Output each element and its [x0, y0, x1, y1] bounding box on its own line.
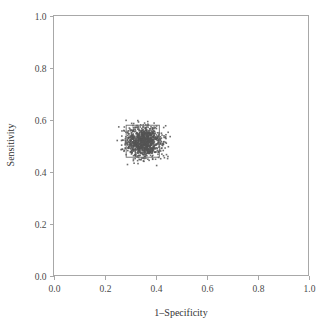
y-tick-label: 0.2 [35, 220, 47, 230]
scatter-plot-canvas: 0.00.20.40.60.81.0 0.00.20.40.60.81.0 1–… [0, 0, 330, 323]
y-tick-label: 0.0 [35, 272, 47, 282]
x-tick-label: 0.8 [253, 284, 265, 294]
y-axis-ticks: 0.00.20.40.60.81.0 [35, 12, 54, 282]
x-tick-label: 0.2 [100, 284, 112, 294]
x-axis-title: 1–Specificity [154, 307, 207, 318]
y-tick-label: 0.4 [35, 168, 47, 178]
y-tick-label: 1.0 [35, 12, 47, 22]
x-tick-label: 0.0 [49, 284, 61, 294]
plot-frame [54, 16, 309, 276]
x-axis-ticks: 0.00.20.40.60.81.0 [49, 276, 316, 294]
y-tick-label: 0.6 [35, 116, 47, 126]
x-tick-label: 0.4 [151, 284, 163, 294]
y-tick-label: 0.8 [35, 64, 47, 74]
y-axis-title: Sensitivity [5, 124, 16, 167]
x-tick-label: 0.6 [202, 284, 214, 294]
roc-scatter-figure: 0.00.20.40.60.81.0 0.00.20.40.60.81.0 1–… [0, 0, 330, 323]
x-tick-label: 1.0 [304, 284, 316, 294]
data-points-layer [116, 120, 171, 167]
